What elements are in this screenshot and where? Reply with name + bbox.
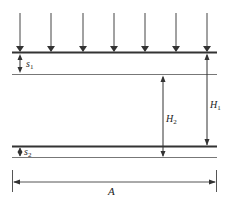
arrow-up-icon [18,148,23,153]
h2-dimension: H2 [161,76,178,158]
arrow-left-icon [13,180,20,185]
a-dimension: A [13,170,217,197]
a-label: A [107,185,115,197]
layer-diagram: s1 s2 H2 H1 A [0,0,228,208]
arrow-right-icon [209,180,216,185]
arrow-down-icon [18,152,23,157]
arrow-down-icon [18,67,23,73]
s1-dimension: s1 [18,54,34,73]
arrow-down-icon [205,139,210,146]
h1-label: H1 [209,99,221,112]
arrow-down-icon [161,151,166,157]
s1-label: s1 [26,58,34,71]
h2-label: H2 [165,113,177,126]
arrow-up-icon [161,76,166,83]
h1-dimension: H1 [205,54,222,146]
arrow-up-icon [18,54,23,60]
load-arrows [20,13,207,51]
arrow-up-icon [205,54,210,61]
